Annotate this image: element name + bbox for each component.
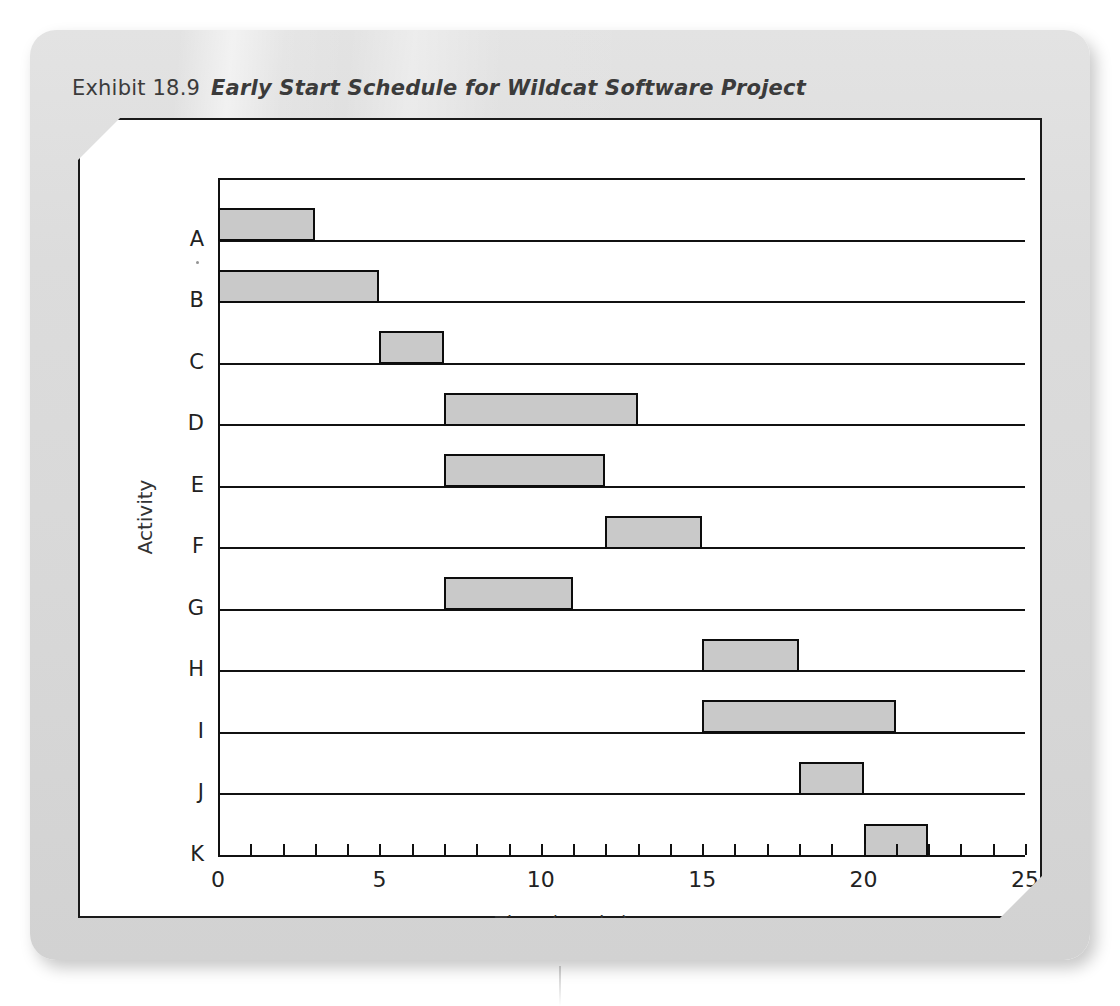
- gantt-bar-i[interactable]: [702, 700, 896, 733]
- gantt-bar-g[interactable]: [444, 577, 573, 610]
- x-axis-tick: [734, 844, 736, 855]
- exhibit-title: Early Start Schedule for Wildcat Softwar…: [211, 76, 806, 100]
- x-axis-label-0: 0: [211, 869, 225, 891]
- activity-label-h: H: [170, 659, 204, 680]
- x-axis-tick: [960, 844, 962, 855]
- x-axis-tick: [379, 844, 381, 855]
- row-line: [218, 793, 1025, 795]
- exhibit-number: Exhibit 18.9: [72, 76, 200, 100]
- activity-label-d: D: [170, 413, 204, 434]
- gantt-bar-j[interactable]: [799, 762, 864, 795]
- activity-label-i: I: [170, 721, 204, 742]
- x-axis-tick: [638, 844, 640, 855]
- gantt-bar-b[interactable]: [218, 270, 379, 303]
- x-axis-tick: [347, 844, 349, 855]
- x-axis-tick: [315, 844, 317, 855]
- x-axis-tick: [476, 844, 478, 855]
- row-line: [218, 732, 1025, 734]
- x-axis-label-15: 15: [688, 869, 716, 891]
- x-axis-tick: [250, 844, 252, 855]
- y-axis-title: Activity: [133, 462, 157, 572]
- row-line: [218, 240, 1025, 242]
- activity-label-g: G: [170, 598, 204, 619]
- x-axis-tick: [541, 844, 543, 855]
- scan-speck: [196, 261, 199, 264]
- exhibit-panel: Exhibit 18.9Early Start Schedule for Wil…: [30, 30, 1090, 960]
- gantt-bar-a[interactable]: [218, 208, 315, 241]
- x-axis-tick: [444, 844, 446, 855]
- gantt-bar-h[interactable]: [702, 639, 799, 672]
- gantt-bar-f[interactable]: [605, 516, 702, 549]
- x-axis-tick: [218, 844, 220, 855]
- activity-label-a: A: [170, 229, 204, 250]
- x-axis-label-25: 25: [1011, 869, 1039, 891]
- x-axis-tick: [1025, 844, 1027, 855]
- gantt-bar-c[interactable]: [379, 331, 444, 364]
- x-axis-label-10: 10: [527, 869, 555, 891]
- activity-label-c: C: [170, 352, 204, 373]
- row-line: [218, 486, 1025, 488]
- x-axis-tick: [573, 844, 575, 855]
- exhibit-caption: Exhibit 18.9Early Start Schedule for Wil…: [72, 76, 806, 100]
- x-axis-tick: [605, 844, 607, 855]
- x-axis-tick: [928, 844, 930, 855]
- page-gutter: [559, 966, 561, 1006]
- x-axis-tick: [799, 844, 801, 855]
- activity-label-b: B: [170, 290, 204, 311]
- row-line-top: [218, 178, 1025, 180]
- x-axis-tick: [864, 844, 866, 855]
- x-axis-tick: [993, 844, 995, 855]
- x-axis-tick: [283, 844, 285, 855]
- row-line: [218, 609, 1025, 611]
- x-axis-tick: [412, 844, 414, 855]
- figure-frame: Activity Time (weeks) ABCDEFGHIJK0510152…: [78, 118, 1042, 918]
- row-line: [218, 670, 1025, 672]
- x-axis-title: Time (weeks): [80, 911, 1044, 935]
- x-axis-label-20: 20: [850, 869, 878, 891]
- gantt-bar-d[interactable]: [444, 393, 638, 426]
- x-axis-tick: [702, 844, 704, 855]
- x-axis-tick: [831, 844, 833, 855]
- activity-label-e: E: [170, 475, 204, 496]
- x-axis-tick: [509, 844, 511, 855]
- x-axis-label-5: 5: [372, 869, 386, 891]
- x-axis-tick: [896, 844, 898, 855]
- activity-label-j: J: [170, 782, 204, 803]
- gantt-chart-plot: Activity Time (weeks) ABCDEFGHIJK0510152…: [80, 120, 1044, 920]
- x-axis-tick: [767, 844, 769, 855]
- activity-label-k: K: [170, 844, 204, 865]
- x-axis-tick: [670, 844, 672, 855]
- gantt-bar-e[interactable]: [444, 454, 605, 487]
- activity-label-f: F: [170, 536, 204, 557]
- row-line: [218, 363, 1025, 365]
